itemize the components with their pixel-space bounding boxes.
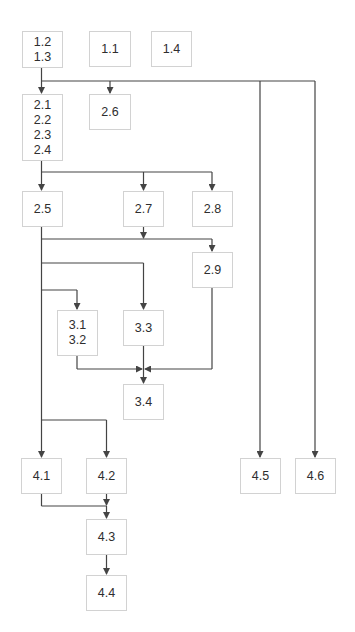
node-4-1: 4.1: [21, 458, 62, 494]
node-3-4: 3.4: [123, 384, 164, 420]
node-4-6: 4.6: [295, 458, 336, 494]
node-4-5: 4.5: [240, 458, 281, 494]
node-1-2-1-3: 1.2 1.3: [22, 31, 63, 68]
node-4-3: 4.3: [86, 519, 127, 555]
node-2-7: 2.7: [123, 191, 164, 227]
node-1-4: 1.4: [151, 31, 192, 67]
node-4-4: 4.4: [86, 575, 127, 611]
node-3-1-3-2: 3.1 3.2: [57, 310, 98, 356]
node-3-3: 3.3: [123, 310, 164, 346]
flowchart-canvas: 1.2 1.3 1.1 1.4 2.1 2.2 2.3 2.4 2.6 2.5 …: [0, 0, 355, 632]
node-2-6: 2.6: [89, 94, 131, 130]
node-2-5: 2.5: [22, 191, 63, 227]
node-2-1-2-4: 2.1 2.2 2.3 2.4: [22, 94, 63, 161]
node-4-2: 4.2: [86, 458, 127, 494]
node-2-9: 2.9: [192, 252, 233, 288]
node-1-1: 1.1: [89, 31, 131, 67]
node-2-8: 2.8: [192, 191, 233, 227]
